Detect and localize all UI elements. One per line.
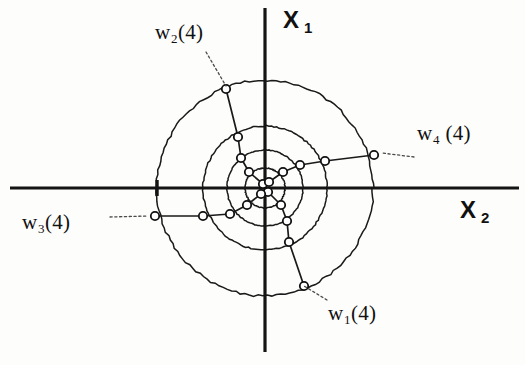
x1-axis-label: X1: [283, 8, 312, 35]
node-w34-1: [199, 212, 207, 220]
node-w14-1: [285, 238, 293, 246]
w4-label-leader: [382, 153, 414, 157]
w3-label-subscript: 3: [37, 221, 45, 236]
x2-axis-label-subscript: 2: [476, 209, 489, 226]
node-w34-2: [226, 210, 234, 218]
node-w14-0: [300, 282, 308, 290]
w3-label: w3(4): [22, 212, 70, 235]
w4-label-subscript: 4: [432, 132, 440, 147]
x1-axis-label-subscript: 1: [299, 19, 312, 36]
w1-label-subscript: 1: [343, 312, 351, 327]
w1-label-base: w: [328, 301, 343, 325]
w3-label-base: w: [22, 210, 37, 234]
w2-label-leader: [206, 52, 226, 86]
node-w44-2: [296, 161, 304, 169]
figure-root: w2(4) w4 (4) w3(4) w1(4) X1 X2: [0, 0, 525, 365]
w1-label: w1(4): [328, 303, 376, 326]
x1-axis-label-base: X: [283, 6, 299, 33]
node-w14-3: [277, 201, 285, 209]
label-leader-lines-group: [110, 52, 414, 300]
node-w44-3: [279, 168, 287, 176]
w2-label: w2(4): [155, 22, 203, 45]
x2-axis-label-base: X: [460, 196, 476, 223]
node-w44-0: [370, 151, 378, 159]
node-w44-4: [265, 178, 273, 186]
w3-label-leader: [110, 216, 148, 217]
w2-label-base: w: [155, 20, 170, 44]
w3-label-suffix: (4): [45, 210, 70, 234]
node-w24-3: [245, 168, 253, 176]
node-w24-1: [234, 133, 242, 141]
w4-label: w4 (4): [417, 123, 471, 146]
w1-label-suffix: (4): [351, 301, 376, 325]
w2-label-suffix: (4): [178, 20, 203, 44]
node-w34-3: [243, 201, 251, 209]
w2-label-subscript: 2: [170, 31, 178, 46]
w4-label-suffix: (4): [440, 121, 471, 145]
node-w24-2: [237, 154, 245, 162]
spiral-weight-trajectory-figure: [0, 0, 525, 365]
node-w14-2: [283, 217, 291, 225]
node-w34-0: [151, 212, 159, 220]
node-w34-4: [257, 190, 265, 198]
w4-label-base: w: [417, 121, 432, 145]
x2-axis-label: X2: [460, 198, 489, 225]
node-w44-1: [321, 157, 329, 165]
